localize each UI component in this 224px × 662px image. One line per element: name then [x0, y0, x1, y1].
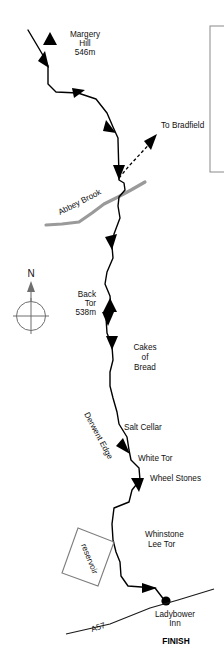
route-arrow-10	[142, 583, 157, 593]
ladybower-inn-label-line1: Ladybower	[155, 610, 195, 619]
reservoir-label: reservoir	[79, 542, 99, 575]
compass-north-arrowhead	[27, 281, 35, 292]
right-frame-box	[210, 26, 224, 172]
route-arrow-1	[38, 51, 49, 68]
abbey-brook-label: Abbey Brook	[57, 187, 104, 217]
route-arrow-2	[72, 88, 85, 98]
margery-hill-summit-marker	[43, 32, 57, 45]
ladybower-inn-label-line2: Inn	[169, 619, 181, 628]
back-tor-label-line2: Tor	[85, 299, 97, 308]
route-arrow-6	[102, 312, 114, 326]
cakes-of-bread-label-line3: Bread	[134, 363, 156, 372]
back-tor-label-line1: Back	[78, 290, 97, 299]
cakes-of-bread-label-line1: Cakes	[133, 343, 156, 352]
margery-hill-label-line2: Hill	[79, 39, 91, 48]
white-tor-label: White Tor	[138, 454, 173, 463]
compass-north-label: N	[27, 268, 34, 279]
a57-road-label: A57	[90, 621, 107, 634]
route-arrow-5	[105, 234, 117, 250]
finish-label: FINISH	[162, 636, 189, 646]
margery-hill-height-label: 546m	[75, 48, 96, 57]
route-arrow-7	[106, 336, 118, 350]
to-bradfield-label: To Bradfield	[161, 121, 205, 130]
compass-rose: N	[13, 268, 49, 334]
route-arrow-3	[103, 120, 116, 133]
back-tor-height-label: 538m	[76, 308, 97, 317]
salt-cellar-label: Salt Cellar	[124, 423, 162, 432]
route-direction-arrows	[38, 51, 157, 593]
wheel-stones-label: Wheel Stones	[150, 474, 201, 483]
map-canvas: N Margery Hill 546m To Bradfield Abbey B…	[0, 0, 224, 662]
margery-hill-label-line1: Margery	[70, 30, 101, 39]
cakes-of-bread-label-line2: of	[142, 353, 150, 362]
whinstone-lee-tor-label-line2: Lee Tor	[148, 540, 175, 549]
derwent-edge-label: Derwent Edge	[82, 411, 115, 461]
route-map: N Margery Hill 546m To Bradfield Abbey B…	[0, 0, 224, 662]
back-tor-summit-marker	[103, 298, 117, 312]
whinstone-lee-tor-label-line1: Whinstone	[145, 530, 184, 539]
